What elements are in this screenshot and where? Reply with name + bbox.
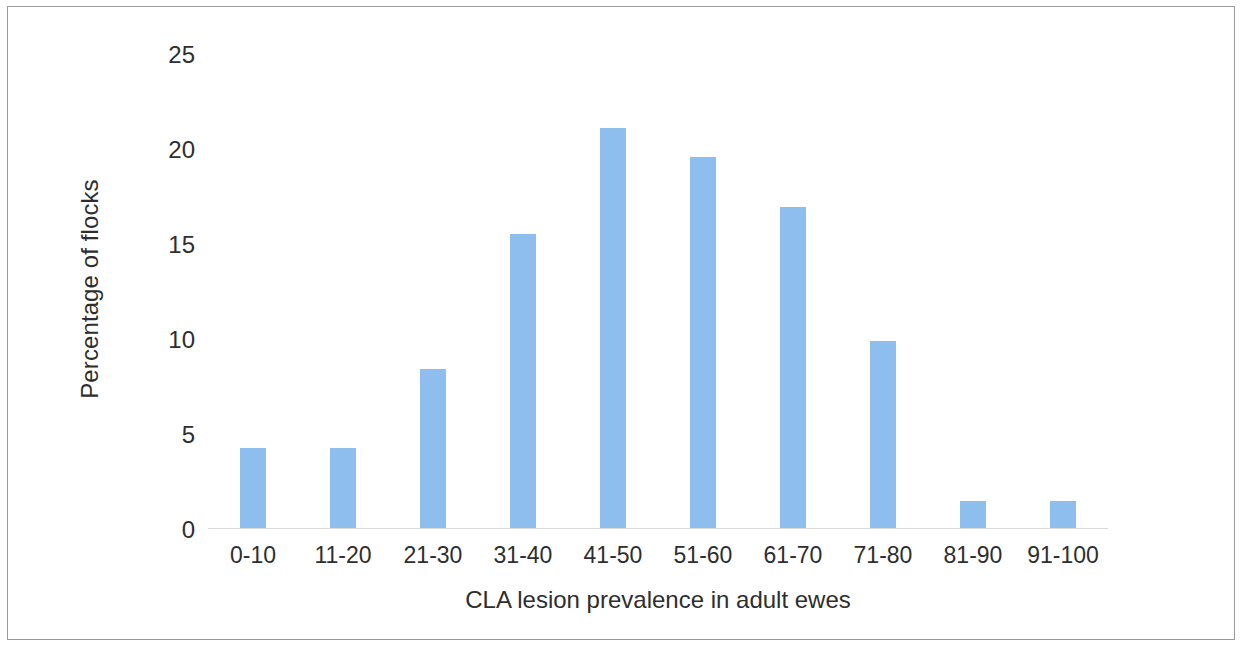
chart-plot: Percentage of flocks 25 20 15 10 5 0	[0, 0, 1242, 646]
x-tick-slot: 0-10	[208, 542, 298, 569]
bar-31-40	[510, 234, 536, 528]
bar-71-80	[870, 341, 896, 528]
y-tick-label-20: 20	[115, 138, 195, 162]
x-tick-label-7: 71-80	[854, 542, 913, 568]
x-tick-label-8: 81-90	[944, 542, 1003, 568]
x-tick-slot: 41-50	[568, 542, 658, 569]
x-tick-slot: 11-20	[298, 542, 388, 569]
x-tick-slot: 51-60	[658, 542, 748, 569]
bar-0-10	[240, 448, 266, 528]
x-tick-slot: 81-90	[928, 542, 1018, 569]
bar-21-30	[420, 369, 446, 528]
x-tick-label-4: 41-50	[584, 542, 643, 568]
bar-slot	[388, 42, 478, 528]
x-tick-label-1: 11-20	[314, 542, 371, 568]
bar-11-20	[330, 448, 356, 528]
y-axis-tick-labels: 25 20 15 10 5 0	[110, 0, 195, 646]
y-tick-label-5: 5	[115, 423, 195, 447]
bar-slot	[928, 42, 1018, 528]
bar-slot	[748, 42, 838, 528]
bar-series	[208, 42, 1108, 528]
x-axis-title: CLA lesion prevalence in adult ewes	[208, 586, 1108, 614]
y-tick-label-10: 10	[115, 328, 195, 352]
x-tick-label-0: 0-10	[230, 542, 276, 568]
bar-51-60	[690, 157, 716, 528]
x-tick-label-6: 61-70	[764, 542, 823, 568]
x-tick-label-3: 31-40	[494, 542, 553, 568]
bar-91-100	[1050, 501, 1076, 528]
y-tick-label-25: 25	[115, 43, 195, 67]
x-tick-label-5: 51-60	[674, 542, 733, 568]
bar-41-50	[600, 128, 626, 528]
bar-slot	[298, 42, 388, 528]
bar-81-90	[960, 501, 986, 528]
x-tick-slot: 61-70	[748, 542, 838, 569]
bar-slot	[568, 42, 658, 528]
y-axis-title: Percentage of flocks	[76, 139, 104, 439]
x-tick-slot: 21-30	[388, 542, 478, 569]
bar-slot	[1018, 42, 1108, 528]
x-tick-slot: 31-40	[478, 542, 568, 569]
bar-61-70	[780, 207, 806, 528]
x-tick-label-2: 21-30	[404, 542, 463, 568]
x-axis-baseline	[208, 528, 1108, 529]
x-tick-slot: 91-100	[1018, 542, 1108, 569]
y-tick-label-0: 0	[115, 518, 195, 542]
bar-slot	[838, 42, 928, 528]
x-tick-label-9: 91-100	[1027, 542, 1099, 568]
bar-slot	[208, 42, 298, 528]
x-tick-slot: 71-80	[838, 542, 928, 569]
bar-slot	[478, 42, 568, 528]
chart-figure: Percentage of flocks 25 20 15 10 5 0	[0, 0, 1242, 646]
x-axis-tick-labels: 0-10 11-20 21-30 31-40 41-50 51-60 61-70…	[208, 542, 1108, 569]
y-tick-label-15: 15	[115, 233, 195, 257]
bar-slot	[658, 42, 748, 528]
